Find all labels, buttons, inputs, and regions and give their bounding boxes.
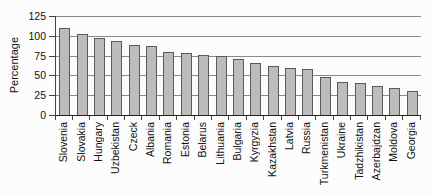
bar (198, 55, 209, 115)
x-label-cell: Kyrgyzia (246, 122, 263, 194)
bar-cell (351, 83, 368, 115)
x-tick-mark (385, 116, 386, 120)
x-label-cell: Georgia (403, 122, 420, 194)
bar (181, 53, 192, 115)
x-label-cell: Slovakia (72, 122, 89, 194)
x-tick-label: Romania (162, 122, 173, 164)
x-tick-label: Turkmenistan (319, 122, 330, 185)
x-label-cell: Moldova (385, 122, 402, 194)
x-label-cell: Azerbajdzan (368, 122, 385, 194)
x-tick-mark (159, 116, 160, 120)
bars (56, 16, 421, 115)
x-label-cell: Czeck (125, 122, 142, 194)
x-label-cell: Uzbekistan (107, 122, 124, 194)
x-tick-mark (333, 116, 334, 120)
x-tick-label: Ukraine (336, 122, 347, 158)
y-tick-label: 50 (34, 69, 46, 81)
plot-area (55, 16, 421, 116)
bar (372, 86, 383, 115)
y-tick-label: 100 (28, 30, 46, 42)
x-tick-label: Kyrgyzia (249, 122, 260, 162)
x-label-cell: Bulgaria (229, 122, 246, 194)
x-tick-mark (402, 116, 403, 120)
x-tick-mark (89, 116, 90, 120)
x-tick-label: Slovenia (58, 122, 69, 162)
bar-cell (195, 55, 212, 115)
x-tick-label: Lithuania (215, 122, 226, 165)
x-tick-mark (420, 116, 421, 120)
bar-cell (386, 88, 403, 115)
x-tick-mark (281, 116, 282, 120)
x-label-cell: Estonia (177, 122, 194, 194)
bar-cell (73, 34, 90, 115)
x-label-cell: Albania (142, 122, 159, 194)
x-tick-mark (124, 116, 125, 120)
x-tick-label: Albania (145, 122, 156, 157)
x-tick-mark (246, 116, 247, 120)
bar-cell (299, 69, 316, 115)
y-tick-label: 125 (28, 10, 46, 22)
bar (407, 91, 418, 115)
x-tick-label: Uzbekistan (110, 122, 121, 174)
bar-cell (126, 45, 143, 116)
x-tick-mark (298, 116, 299, 120)
x-tick-label: Russia (301, 122, 312, 154)
x-tick-mark (350, 116, 351, 120)
x-tick-label: Estonia (180, 122, 191, 157)
y-tick-label: 75 (34, 50, 46, 62)
bar (163, 52, 174, 115)
x-label-cell: Tadzhikistan (350, 122, 367, 194)
x-tick-label: Georgia (406, 122, 417, 159)
x-tick-mark (55, 116, 56, 120)
bar-cell (108, 41, 125, 115)
x-tick-label: Tadzhikistan (354, 122, 365, 180)
x-tick-mark (367, 116, 368, 120)
x-tick-label: Kazakhstan (267, 122, 278, 177)
x-label-cell: Russia (298, 122, 315, 194)
x-tick-label: Slovakia (76, 122, 87, 162)
x-tick-mark (263, 116, 264, 120)
x-tick-label: Moldova (388, 122, 399, 162)
bar (77, 34, 88, 115)
bar (302, 69, 313, 115)
bar (268, 66, 279, 115)
x-label-cell: Kazakhstan (264, 122, 281, 194)
x-tick-label: Hungary (93, 122, 104, 162)
bar-cell (178, 53, 195, 115)
bar (111, 41, 122, 115)
x-tick-label: Belarus (197, 122, 208, 158)
x-tick-label: Latvia (284, 122, 295, 150)
bar-cell (404, 91, 421, 115)
bar-cell (334, 82, 351, 115)
bar (94, 38, 105, 115)
bar-cell (317, 77, 334, 115)
bar-cell (160, 52, 177, 115)
x-tick-mark (194, 116, 195, 120)
bar (146, 46, 157, 115)
x-tick-label: Czeck (128, 122, 139, 151)
bar-chart-figure: Percentage 0255075100125 SloveniaSlovaki… (0, 0, 432, 195)
bar (233, 59, 244, 115)
y-tick-label: 25 (34, 89, 46, 101)
x-tick-mark (72, 116, 73, 120)
bar-cell (143, 46, 160, 115)
bar-cell (91, 38, 108, 115)
bar (337, 82, 348, 115)
x-tick-mark (176, 116, 177, 120)
x-tick-mark (315, 116, 316, 120)
x-tick-mark (107, 116, 108, 120)
bar-cell (230, 59, 247, 115)
y-tick-labels: 0255075100125 (0, 0, 48, 195)
bar-cell (56, 28, 73, 115)
bar-cell (282, 68, 299, 115)
x-label-cell: Romania (159, 122, 176, 194)
x-label-cell: Slovenia (55, 122, 72, 194)
bar-cell (369, 86, 386, 115)
bar-cell (247, 63, 264, 115)
bar (285, 68, 296, 115)
x-label-cell: Turkmenistan (316, 122, 333, 194)
bar (129, 45, 140, 116)
bar (320, 77, 331, 115)
x-label-cell: Latvia (281, 122, 298, 194)
x-tick-marks (55, 116, 420, 120)
